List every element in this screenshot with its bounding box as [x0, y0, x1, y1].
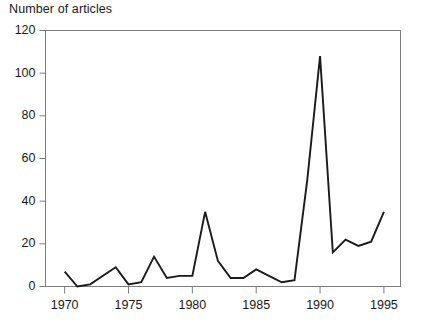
x-axis-tick-label: 1985 — [230, 299, 282, 312]
x-axis-tick-label: 1970 — [39, 299, 91, 312]
y-axis-tick-label: 20 — [2, 237, 36, 250]
x-axis-tick-label: 1990 — [294, 299, 346, 312]
x-axis-tick-label: 1980 — [166, 299, 218, 312]
line-chart: Number of articles 020406080100120 19701… — [0, 0, 429, 326]
y-axis-tick-label: 120 — [2, 24, 36, 37]
plot-frame — [46, 31, 401, 287]
y-axis-tick-label: 0 — [2, 280, 36, 293]
y-axis-ticks — [40, 31, 46, 287]
y-axis-tick-label: 40 — [2, 195, 36, 208]
x-axis-tick-label: 1975 — [103, 299, 155, 312]
data-series-line — [65, 56, 384, 286]
x-axis-ticks — [65, 287, 384, 294]
plot-area — [0, 0, 429, 326]
x-axis-tick-label: 1995 — [358, 299, 410, 312]
y-axis-tick-label: 60 — [2, 152, 36, 165]
y-axis-tick-label: 80 — [2, 109, 36, 122]
plot-frame-rect — [46, 31, 401, 287]
y-axis-tick-label: 100 — [2, 67, 36, 80]
